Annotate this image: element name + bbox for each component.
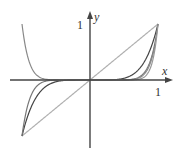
y-axis-arrow-icon [87,11,93,19]
x-axis-label: x [161,64,168,78]
y-axis-label: y [93,10,100,24]
power-functions-plot: x y 1 1 [0,0,183,154]
x-tick-label-1: 1 [155,85,161,99]
curve-y-x-10 [22,24,155,80]
y-tick-label-1: 1 [77,18,83,32]
